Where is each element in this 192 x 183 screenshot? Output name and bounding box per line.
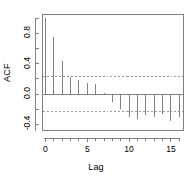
acf-bars bbox=[45, 18, 179, 120]
y-tick-label: 0.8 bbox=[22, 21, 32, 43]
y-tick-label: 0.0 bbox=[22, 82, 32, 104]
y-axis-title: ACF bbox=[2, 63, 12, 82]
x-tick-label: 15 bbox=[160, 144, 182, 154]
x-tick-label: 0 bbox=[34, 144, 56, 154]
y-tick-label: -0.4 bbox=[22, 112, 32, 134]
x-tick-label: 10 bbox=[118, 144, 140, 154]
acf-plot-figure: ACF Lag -0.40.00.40.8 051015 bbox=[0, 0, 192, 183]
plot-axes bbox=[35, 18, 179, 142]
x-tick-label: 5 bbox=[76, 144, 98, 154]
y-tick-label: 0.4 bbox=[22, 52, 32, 74]
x-axis-title: Lag bbox=[0, 162, 192, 172]
